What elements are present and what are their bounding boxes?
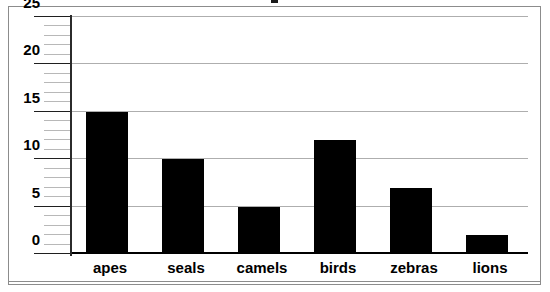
x-axis-baseline <box>72 252 528 254</box>
bar-chart-screenshot: 0510152025 apessealscamelsbirdszebraslio… <box>0 0 550 292</box>
bar-camels <box>238 207 280 254</box>
y-minor-tick-2 <box>44 234 71 235</box>
gridline-15 <box>72 111 528 112</box>
y-major-tick-10 <box>34 158 71 159</box>
bar-seals <box>162 159 204 254</box>
y-minor-tick-6 <box>44 196 71 197</box>
x-label-seals: seals <box>148 258 224 278</box>
y-minor-tick-22 <box>44 44 71 45</box>
y-axis-tick-labels: 0510152025 <box>0 17 40 254</box>
y-major-tick-15 <box>34 111 71 112</box>
bar-apes <box>86 112 128 254</box>
y-minor-tick-3 <box>44 225 71 226</box>
y-tick-label-25: 25 <box>6 0 40 10</box>
gridline-25 <box>72 16 528 17</box>
title-glyph-fragment <box>271 0 278 3</box>
y-minor-tick-14 <box>44 120 71 121</box>
plot-area <box>72 17 528 254</box>
gridline-20 <box>72 63 528 64</box>
x-label-lions: lions <box>452 258 528 278</box>
y-tick-label-0: 0 <box>6 232 40 247</box>
x-axis-category-labels: apessealscamelsbirdszebraslions <box>72 258 528 282</box>
gridline-5 <box>72 206 528 207</box>
gridline-10 <box>72 158 528 159</box>
x-label-camels: camels <box>224 258 300 278</box>
y-major-tick-0 <box>34 253 71 254</box>
y-minor-tick-8 <box>44 177 71 178</box>
bar-lions <box>466 235 508 254</box>
y-minor-tick-7 <box>44 187 71 188</box>
y-minor-tick-4 <box>44 215 71 216</box>
x-label-zebras: zebras <box>376 258 452 278</box>
y-tick-label-20: 20 <box>6 42 40 57</box>
y-minor-tick-18 <box>44 82 71 83</box>
x-label-apes: apes <box>72 258 148 278</box>
y-minor-tick-21 <box>44 54 71 55</box>
y-minor-tick-12 <box>44 139 71 140</box>
y-major-tick-20 <box>34 63 71 64</box>
label-separator-line <box>9 281 540 282</box>
clipped-title-sliver <box>0 0 550 3</box>
y-major-tick-5 <box>34 206 71 207</box>
bar-birds <box>314 140 356 254</box>
y-major-tick-25 <box>34 16 71 17</box>
y-minor-tick-11 <box>44 149 71 150</box>
y-minor-tick-9 <box>44 168 71 169</box>
y-minor-tick-24 <box>44 25 71 26</box>
y-minor-tick-16 <box>44 101 71 102</box>
y-axis-minor-ticks <box>44 17 71 254</box>
y-tick-label-5: 5 <box>6 184 40 199</box>
y-minor-tick-1 <box>44 244 71 245</box>
y-minor-tick-13 <box>44 130 71 131</box>
bar-zebras <box>390 188 432 254</box>
y-minor-tick-23 <box>44 35 71 36</box>
y-minor-tick-19 <box>44 73 71 74</box>
y-tick-label-15: 15 <box>6 89 40 104</box>
x-label-birds: birds <box>300 258 376 278</box>
y-tick-label-10: 10 <box>6 137 40 152</box>
y-minor-tick-17 <box>44 92 71 93</box>
